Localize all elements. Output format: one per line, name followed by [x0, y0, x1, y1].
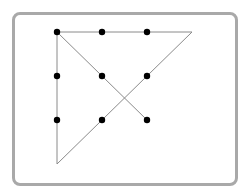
- grid-dot: [54, 73, 60, 79]
- solution-lines: [57, 32, 192, 164]
- grid-dot: [99, 73, 105, 79]
- grid-dot: [99, 29, 105, 35]
- grid-dot: [54, 29, 60, 35]
- grid-dot: [144, 117, 150, 123]
- grid-dot: [54, 117, 60, 123]
- grid-dot: [144, 73, 150, 79]
- nine-dot-diagram: [0, 0, 247, 195]
- grid-dot: [99, 117, 105, 123]
- grid-dot: [144, 29, 150, 35]
